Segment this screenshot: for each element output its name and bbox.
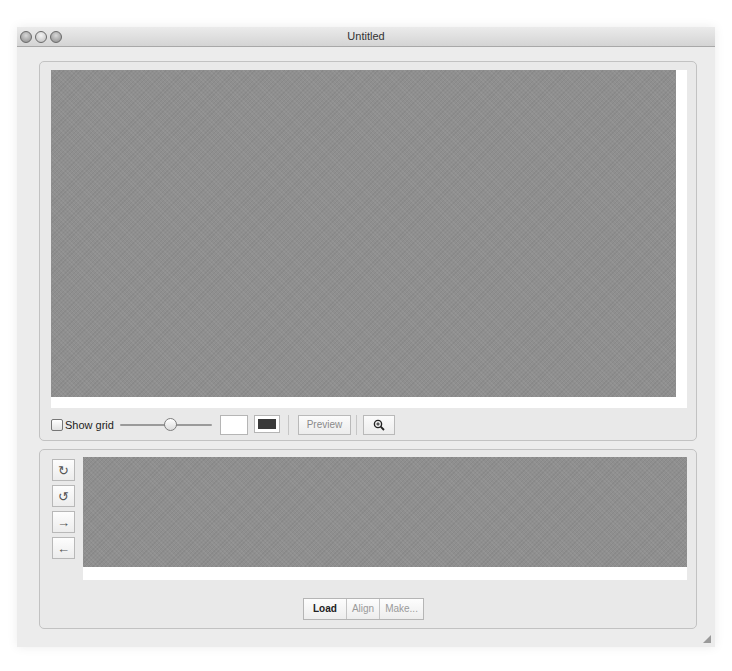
title-bar[interactable]: Untitled <box>17 27 715 47</box>
color-fill <box>258 419 276 429</box>
canvas-toolbar: Show grid Preview <box>51 415 691 437</box>
main-canvas-frame <box>51 70 687 408</box>
strip-canvas[interactable] <box>83 457 687 567</box>
show-grid-toggle[interactable]: Show grid <box>51 419 114 431</box>
zoom-in-button[interactable] <box>363 415 395 435</box>
mode-segmented-control: Load Align Make... <box>303 598 424 620</box>
foreground-color-well[interactable] <box>254 415 280 433</box>
toolbar-separator <box>288 415 289 435</box>
rotate-counterclockwise-button[interactable]: ↺ <box>52 485 75 507</box>
arrow-left-icon: ← <box>57 541 70 556</box>
rotate-clockwise-button[interactable]: ↻ <box>52 459 75 481</box>
show-grid-checkbox[interactable] <box>51 419 63 431</box>
load-segment[interactable]: Load <box>304 599 347 619</box>
main-canvas[interactable] <box>51 70 676 397</box>
toolbar-separator <box>356 415 357 435</box>
show-grid-label: Show grid <box>65 419 114 431</box>
magnifier-plus-icon <box>373 419 385 431</box>
top-panel: Show grid Preview <box>39 61 697 441</box>
window-title: Untitled <box>17 30 715 42</box>
arrow-right-icon: → <box>57 515 70 530</box>
align-segment[interactable]: Align <box>347 599 380 619</box>
strip-canvas-frame <box>83 457 687 580</box>
rotate-clockwise-icon: ↻ <box>58 463 69 478</box>
background-color-well[interactable] <box>220 415 248 435</box>
make-segment[interactable]: Make... <box>380 599 423 619</box>
bottom-panel: ↻ ↺ → ← Load Align Make... <box>39 449 697 629</box>
grid-size-slider[interactable] <box>120 418 212 432</box>
slider-knob[interactable] <box>164 418 177 431</box>
move-left-button[interactable]: ← <box>52 537 75 559</box>
resize-grip[interactable] <box>703 635 711 643</box>
app-window: Untitled Show grid Preview <box>17 27 715 647</box>
preview-button[interactable]: Preview <box>298 415 351 435</box>
move-right-button[interactable]: → <box>52 511 75 533</box>
rotate-counterclockwise-icon: ↺ <box>58 489 69 504</box>
